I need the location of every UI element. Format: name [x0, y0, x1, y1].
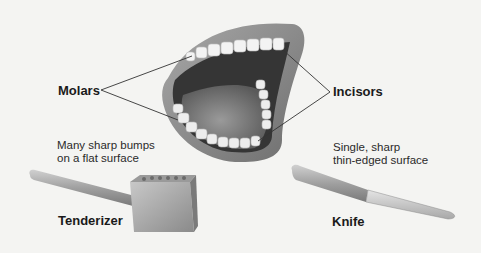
tenderizer-description: Many sharp bumps on a flat surface: [57, 139, 155, 165]
knife-description: Single, sharp thin-edged surface: [333, 141, 428, 167]
knife-illustration: [292, 165, 455, 219]
mouth-illustration: [162, 23, 304, 162]
knife-label: Knife: [332, 215, 365, 229]
teeth-analogy-diagram: Molars Incisors Many sharp bumps on a fl…: [0, 0, 481, 253]
tenderizer-label: Tenderizer: [58, 214, 123, 228]
incisors-label: Incisors: [333, 85, 383, 99]
molars-label: Molars: [58, 84, 100, 98]
